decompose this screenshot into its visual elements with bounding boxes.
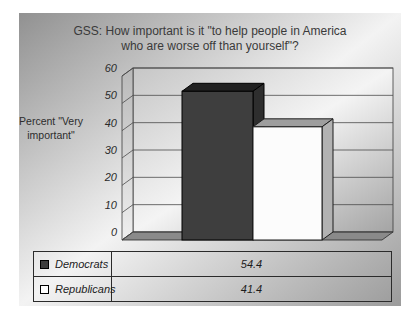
legend-cell-democrats: Democrats [34,252,112,276]
chart-data-table: Democrats54.4Republicans41.4 [33,251,392,302]
legend-label-republicans: Republicans [55,283,116,295]
bar-republicans-side [322,119,333,240]
y-tick-label-30: 30 [105,144,118,156]
bar-democrats-top [182,83,264,91]
y-tick-label-60: 60 [105,62,118,74]
bar-democrats-front [182,91,253,240]
table-row-democrats: Democrats54.4 [34,252,391,276]
bar-republicans-front [253,127,322,240]
y-tick-label-10: 10 [105,199,118,211]
y-tick-label-50: 50 [105,89,118,101]
legend-cell-republicans: Republicans [34,277,112,301]
bar-republicans-top [253,119,333,127]
legend-swatch-republicans [40,285,49,294]
page-background: GSS: How important is it "to help people… [0,0,419,317]
chart-canvas: GSS: How important is it "to help people… [19,13,401,306]
y-tick-label-0: 0 [111,226,118,238]
value-cell-republicans: 41.4 [112,283,391,295]
value-cell-democrats: 54.4 [112,258,391,270]
legend-label-democrats: Democrats [55,258,108,270]
y-tick-label-40: 40 [105,117,118,129]
table-row-republicans: Republicans41.4 [34,276,391,301]
legend-swatch-democrats [40,260,49,269]
y-tick-label-20: 20 [104,171,118,183]
